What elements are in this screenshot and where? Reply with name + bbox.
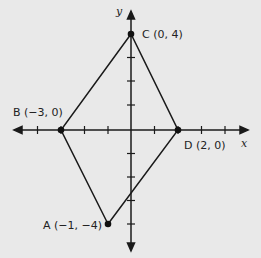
quadrilateral-abcd [61, 34, 178, 224]
point-a [105, 221, 112, 228]
y-axis-down-arrow-icon [128, 243, 135, 251]
y-axis-up-arrow-icon [128, 11, 135, 19]
point-d [175, 127, 182, 134]
x-axis-label: x [241, 137, 248, 150]
y-axis [127, 11, 135, 251]
x-axis-left-arrow-icon [14, 127, 22, 134]
point-c-label: C (0, 4) [142, 28, 183, 41]
point-d-label: D (2, 0) [184, 139, 226, 152]
coordinate-plane: y x C (0, 4) B (−3, 0) D (2, 0) A (−1, −… [0, 0, 261, 258]
point-c [128, 31, 135, 38]
point-b-label: B (−3, 0) [13, 106, 63, 119]
y-axis-label: y [115, 5, 123, 18]
x-axis-right-arrow-icon [240, 127, 248, 134]
point-a-label: A (−1, −4) [43, 219, 102, 232]
point-b [58, 127, 65, 134]
